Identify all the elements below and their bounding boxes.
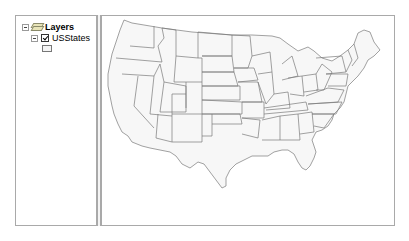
layers-root-label: Layers xyxy=(45,22,74,32)
collapse-icon[interactable] xyxy=(31,35,38,42)
layer-symbol-swatch[interactable] xyxy=(42,45,52,52)
layer-visibility-checkbox[interactable] xyxy=(41,34,49,42)
layers-root-row[interactable]: Layers xyxy=(22,22,74,32)
layers-icon xyxy=(32,23,42,31)
layer-name: USStates xyxy=(52,33,90,43)
collapse-icon[interactable] xyxy=(22,24,29,31)
map-view[interactable] xyxy=(101,15,395,226)
us-states-map xyxy=(102,16,394,225)
layer-row-usstates[interactable]: USStates xyxy=(31,33,90,43)
table-of-contents-pane: Layers USStates xyxy=(15,15,97,226)
